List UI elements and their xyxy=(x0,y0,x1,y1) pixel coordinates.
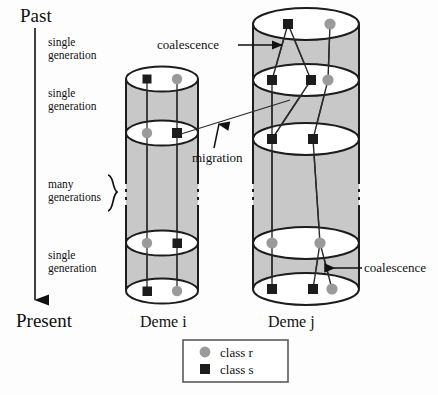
class-s-marker xyxy=(308,284,318,294)
deme-i-generation-2-ellipse xyxy=(126,121,198,146)
generation-label-line1: single xyxy=(48,249,75,262)
migration-leader-arrow xyxy=(214,124,219,148)
many-generations-brace xyxy=(108,175,117,211)
class-s-marker xyxy=(267,284,277,294)
class-r-marker xyxy=(172,74,182,84)
generation-label-line1: many xyxy=(48,178,74,191)
class-s-marker xyxy=(283,19,293,29)
class-s-marker xyxy=(267,75,277,85)
coalescence-top-label: coalescence xyxy=(157,37,219,52)
deme-i-label: Deme i xyxy=(140,313,187,330)
generation-label-g1: single generation xyxy=(48,36,97,62)
coalescence-bottom-label: coalescence xyxy=(364,260,426,275)
class-r-marker xyxy=(314,237,325,248)
class-s-marker xyxy=(173,239,183,249)
generation-label-line1: single xyxy=(48,36,75,49)
class-r-marker xyxy=(142,238,152,248)
generation-label-g2: single generation xyxy=(48,87,97,113)
class-r-marker xyxy=(172,286,182,296)
class-s-marker xyxy=(143,287,153,297)
class-s-marker xyxy=(172,128,182,138)
legend: class r class s xyxy=(183,340,288,382)
coalescent-deme-diagram: Past Present single generation single ge… xyxy=(0,0,438,395)
generation-label-g3: many generations xyxy=(48,178,102,204)
generation-label-line2: generation xyxy=(48,262,97,275)
generation-label-line2: generation xyxy=(48,100,97,113)
class-s-marker xyxy=(267,134,277,144)
generation-label-line2: generation xyxy=(48,49,97,62)
generation-label-g4: single generation xyxy=(48,249,97,275)
class-s-marker xyxy=(306,75,316,85)
square-marker-icon xyxy=(200,364,210,374)
deme-i-cylinder xyxy=(126,67,198,304)
deme-j-label: Deme j xyxy=(268,313,315,331)
class-r-marker xyxy=(322,74,333,85)
deme-i-generation-3-ellipse xyxy=(126,231,198,256)
migration-label: migration xyxy=(192,150,243,165)
past-label: Past xyxy=(20,5,52,26)
present-label: Present xyxy=(16,310,73,331)
class-r-marker xyxy=(266,237,277,248)
figure-canvas: Past Present single generation single ge… xyxy=(0,0,438,395)
class-s-marker xyxy=(308,134,318,144)
generation-label-line2: generations xyxy=(48,191,102,204)
deme-i-body-fill xyxy=(126,79,198,302)
generation-label-line1: single xyxy=(48,87,75,100)
class-s-marker xyxy=(143,75,152,84)
deme-j-generation-1-ellipse xyxy=(253,8,359,40)
class-r-marker xyxy=(326,283,337,294)
circle-marker-icon xyxy=(200,347,211,358)
legend-label: class s xyxy=(220,362,254,377)
deme-j-cylinder xyxy=(253,8,359,305)
deme-i-generation-4-ellipse xyxy=(126,279,198,304)
class-r-marker xyxy=(324,18,335,29)
class-r-marker xyxy=(142,128,152,138)
legend-label: class r xyxy=(220,345,254,360)
deme-i-generation-1-ellipse xyxy=(126,67,198,92)
